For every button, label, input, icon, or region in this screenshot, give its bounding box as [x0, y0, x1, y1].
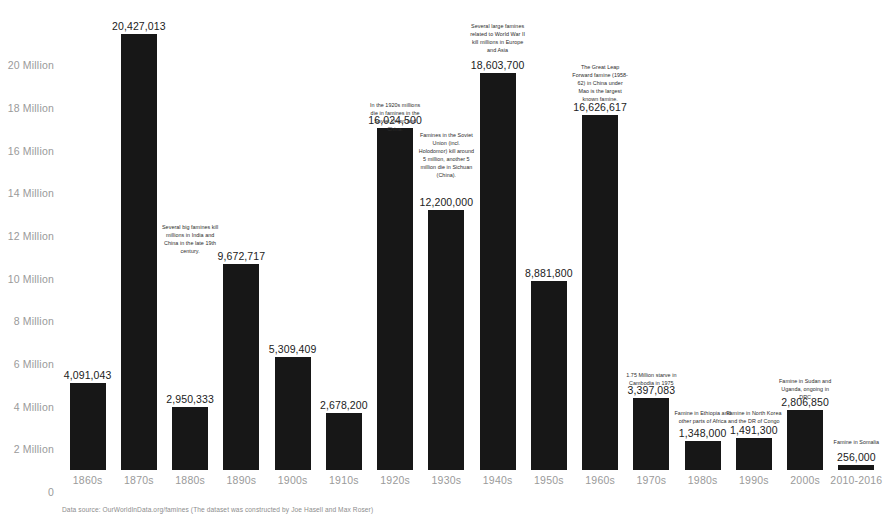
annotation-1930s: Famines in the Soviet Union (incl. Holod… [418, 131, 475, 180]
x-axis: 1860s1870s1880s1890s1900s1910s1920s1930s… [62, 474, 882, 492]
annotation-2010s: Famine in Somalia [828, 438, 885, 446]
bar[interactable] [326, 413, 362, 470]
famine-deaths-bar-chart: 02 Million4 Million6 Million8 Million10 … [0, 0, 890, 521]
x-axis-tick-label: 2010-2016 [830, 474, 882, 486]
annotation-1990s: Famine in North Korea and the DR of Cong… [725, 409, 782, 425]
bar-value-label: 256,000 [837, 451, 876, 463]
bar[interactable] [172, 407, 208, 470]
bar-value-label: 16,626,617 [573, 101, 627, 113]
bar-value-label: 1,491,300 [730, 424, 778, 436]
bar-value-label: 4,091,043 [64, 369, 112, 381]
annotation-1970s: 1.75 Million starve in Cambodia in 1975 [623, 371, 680, 387]
y-axis-tick-label: 14 Million [8, 187, 54, 199]
bar[interactable] [480, 73, 516, 470]
bar[interactable] [70, 383, 106, 470]
bar-value-label: 8,881,800 [525, 267, 573, 279]
bar[interactable] [685, 441, 721, 470]
x-axis-tick-label: 1860s [73, 474, 103, 486]
bar-value-label: 18,603,700 [471, 59, 525, 71]
bar[interactable] [582, 115, 618, 470]
bar[interactable] [223, 264, 259, 470]
bar[interactable] [428, 210, 464, 470]
bar-value-label: 1,348,000 [679, 427, 727, 439]
y-axis-tick-label: 18 Million [8, 102, 54, 114]
annotation-1940s: Several large famines related to World W… [469, 22, 526, 54]
y-axis-tick-label: 8 Million [14, 315, 54, 327]
bar[interactable] [377, 128, 413, 470]
bar-value-label: 2,950,333 [166, 393, 214, 405]
x-axis-tick-label: 1930s [432, 474, 462, 486]
annotation-1980s: Famine in Ethiopia and other parts of Af… [674, 409, 731, 425]
x-axis-tick-label: 1940s [483, 474, 513, 486]
bar-value-label: 12,200,000 [420, 196, 474, 208]
x-axis-tick-label: 1960s [585, 474, 615, 486]
y-axis-tick-label: 2 Million [14, 443, 54, 455]
annotation-2000s: Famine in Sudan and Uganda, ongoing in D… [776, 377, 833, 401]
bar-value-label: 9,672,717 [218, 250, 266, 262]
data-source-note: Data source: OurWorldInData.org/famines … [62, 506, 373, 513]
y-axis-tick-label: 4 Million [14, 401, 54, 413]
x-axis-tick-label: 1950s [534, 474, 564, 486]
y-axis-tick-label: 10 Million [8, 273, 54, 285]
x-axis-tick-label: 1880s [175, 474, 205, 486]
x-axis-tick-label: 1900s [278, 474, 308, 486]
x-axis-tick-label: 1890s [227, 474, 257, 486]
x-axis-tick-label: 2000s [790, 474, 820, 486]
bar[interactable] [838, 465, 874, 470]
y-axis-tick-label: 6 Million [14, 358, 54, 370]
bar[interactable] [531, 281, 567, 470]
plot-area: 4,091,04320,427,0132,950,3339,672,7175,3… [62, 22, 882, 470]
y-axis-tick-label: 20 Million [8, 59, 54, 71]
x-axis-tick-label: 1970s [637, 474, 667, 486]
annotation-1920s: In the 1920s millions die in famines in … [366, 101, 423, 133]
x-axis-tick-label: 1910s [329, 474, 359, 486]
bar[interactable] [787, 410, 823, 470]
bar[interactable] [633, 398, 669, 470]
x-axis-tick-label: 1990s [739, 474, 769, 486]
annotation-1960s: The Great Leap Forward famine (1958-62) … [571, 63, 628, 104]
bar[interactable] [275, 357, 311, 470]
bar[interactable] [121, 34, 157, 470]
y-axis-tick-label: 16 Million [8, 145, 54, 157]
bar-value-label: 5,309,409 [269, 343, 317, 355]
x-axis-tick-label: 1870s [124, 474, 154, 486]
bar-value-label: 20,427,013 [112, 20, 166, 32]
bar[interactable] [736, 438, 772, 470]
x-axis-tick-label: 1920s [380, 474, 410, 486]
y-axis-tick-label: 12 Million [8, 230, 54, 242]
y-axis: 02 Million4 Million6 Million8 Million10 … [0, 22, 58, 470]
y-axis-tick-label: 0 [48, 486, 54, 498]
bar-value-label: 2,678,200 [320, 399, 368, 411]
annotation-1880s: Several big famines kill millions in Ind… [161, 223, 218, 255]
x-axis-tick-label: 1980s [688, 474, 718, 486]
